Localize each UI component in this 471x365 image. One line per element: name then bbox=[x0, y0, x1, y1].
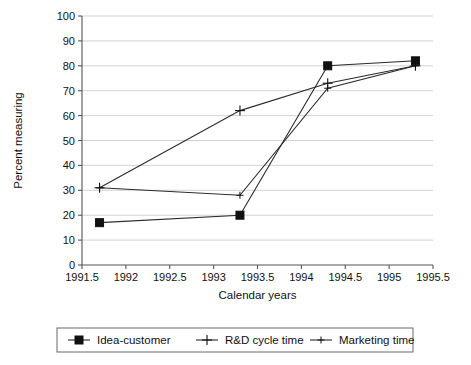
legend-label: Idea-customer bbox=[97, 334, 171, 346]
y-tick-label: 60 bbox=[63, 110, 75, 122]
x-tick-label: 1995.5 bbox=[416, 271, 450, 283]
x-tick-label: 1993 bbox=[201, 271, 225, 283]
y-tick-label: 50 bbox=[63, 135, 75, 147]
x-axis-title: Calendar years bbox=[219, 289, 297, 301]
x-tick-label: 1992.5 bbox=[153, 271, 187, 283]
y-tick-label: 70 bbox=[63, 85, 75, 97]
x-tick-label: 1994.5 bbox=[328, 271, 362, 283]
x-tick-label: 1992 bbox=[114, 271, 138, 283]
x-axis-tick-labels: 1991.519921992.519931993.519941994.51995… bbox=[65, 271, 450, 283]
chart-legend: Idea-customerR&D cycle timeMarketing tim… bbox=[57, 328, 414, 352]
y-tick-label: 90 bbox=[63, 35, 75, 47]
data-point-marker bbox=[96, 219, 104, 227]
legend-label: R&D cycle time bbox=[225, 334, 304, 346]
y-tick-label: 20 bbox=[63, 209, 75, 221]
legend-item-1[interactable]: Idea-customer bbox=[68, 334, 171, 346]
y-axis-title: Percent measuring bbox=[12, 92, 24, 189]
y-tick-label: 10 bbox=[63, 234, 75, 246]
data-point-marker bbox=[324, 62, 332, 70]
x-tick-label: 1991.5 bbox=[65, 271, 99, 283]
data-point-marker bbox=[236, 211, 244, 219]
legend-label: Marketing time bbox=[339, 334, 414, 346]
x-tick-label: 1995 bbox=[377, 271, 401, 283]
legend-marker-icon bbox=[75, 336, 83, 344]
y-tick-label: 80 bbox=[63, 60, 75, 72]
x-tick-label: 1993.5 bbox=[241, 271, 275, 283]
y-tick-label: 40 bbox=[63, 159, 75, 171]
chart-figure: 0102030405060708090100 1991.519921992.51… bbox=[0, 0, 471, 365]
y-tick-label: 30 bbox=[63, 184, 75, 196]
y-tick-label: 0 bbox=[69, 259, 75, 271]
chart-background bbox=[0, 0, 471, 365]
line-chart: 0102030405060708090100 1991.519921992.51… bbox=[0, 0, 471, 365]
y-tick-label: 100 bbox=[57, 10, 75, 22]
x-tick-label: 1994 bbox=[289, 271, 313, 283]
